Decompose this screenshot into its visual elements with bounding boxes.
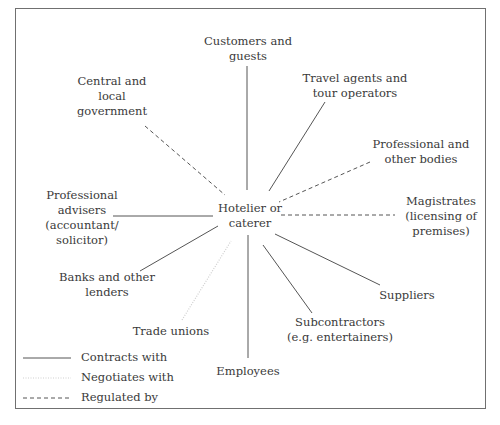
- node-trade-unions: Trade unions: [126, 324, 216, 339]
- node-magistrates: Magistrates (licensing of premises): [396, 194, 486, 239]
- label-line: solicitor): [40, 233, 124, 248]
- label-line: lenders: [52, 285, 162, 300]
- legend-contracts: Contracts with: [81, 350, 167, 365]
- node-customers: Customers and guests: [196, 34, 300, 64]
- label-line: Magistrates: [396, 194, 486, 209]
- center-line2: caterer: [212, 216, 288, 231]
- label-line: Subcontractors: [282, 315, 398, 330]
- label-line: premises): [396, 224, 486, 239]
- label-line: Banks and other: [52, 270, 162, 285]
- center-line1: Hotelier or: [212, 201, 288, 216]
- node-employees: Employees: [208, 364, 288, 379]
- label-line: guests: [196, 49, 300, 64]
- node-central-government: Central and local government: [72, 74, 152, 119]
- label-line: other bodies: [366, 152, 476, 167]
- label-line: Customers and: [196, 34, 300, 49]
- label-line: local: [72, 89, 152, 104]
- label-line: Suppliers: [370, 288, 444, 303]
- label-line: government: [72, 104, 152, 119]
- node-professional-advisers: Professional advisers (accountant/ solic…: [40, 188, 124, 248]
- legend-regulated: Regulated by: [81, 390, 158, 405]
- node-subcontractors: Subcontractors (e.g. entertainers): [282, 315, 398, 345]
- line-prof-bodies: [279, 162, 370, 202]
- label-line: (accountant/: [40, 218, 124, 233]
- node-travel-agents: Travel agents and tour operators: [298, 71, 412, 101]
- line-suppliers: [275, 234, 380, 285]
- label-line: tour operators: [298, 86, 412, 101]
- label-line: advisers: [40, 203, 124, 218]
- line-subcontractors: [263, 245, 312, 313]
- node-professional-bodies: Professional and other bodies: [366, 137, 476, 167]
- label-line: Employees: [208, 364, 288, 379]
- center-node-hotelier: Hotelier or caterer: [212, 201, 288, 231]
- label-line: Travel agents and: [298, 71, 412, 86]
- legend-negotiates: Negotiates with: [81, 370, 174, 385]
- line-banks: [140, 226, 218, 271]
- label-line: (e.g. entertainers): [282, 330, 398, 345]
- node-suppliers: Suppliers: [370, 288, 444, 303]
- line-travel: [269, 102, 325, 191]
- line-central-gov: [145, 126, 225, 195]
- label-line: (licensing of: [396, 209, 486, 224]
- label-line: Trade unions: [126, 324, 216, 339]
- label-line: Central and: [72, 74, 152, 89]
- node-banks: Banks and other lenders: [52, 270, 162, 300]
- line-trade-unions: [182, 241, 231, 320]
- label-line: Professional: [40, 188, 124, 203]
- label-line: Professional and: [366, 137, 476, 152]
